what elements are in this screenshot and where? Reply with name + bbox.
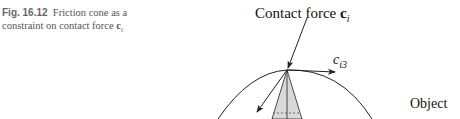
axis-c-i3-label: ci3 [333, 52, 347, 70]
contact-force-subscript: i [347, 13, 350, 24]
friction-cone-diagram [0, 0, 460, 119]
axis-subscript: i3 [339, 59, 347, 70]
contact-force-text: Contact force [255, 5, 340, 21]
object-label: Object [410, 96, 447, 112]
contact-force-arrow [288, 18, 307, 68]
contact-force-vector: c [340, 5, 347, 21]
contact-force-label: Contact force ci [255, 5, 349, 24]
